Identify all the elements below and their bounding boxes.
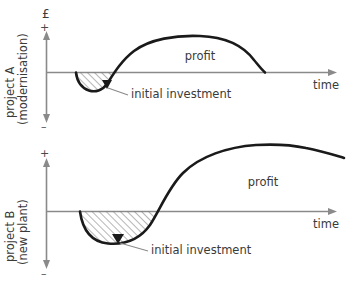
chart-a-profit-label: profit bbox=[185, 49, 216, 63]
chart-a-x-axis-label: time bbox=[313, 78, 339, 92]
chart-a-axis-plus-sign: + bbox=[40, 21, 49, 34]
chart-b-initial-investment-label: initial investment bbox=[151, 243, 252, 257]
chart-b-axis-plus-sign: + bbox=[40, 147, 49, 160]
chart-a-axis-minus-sign: – bbox=[41, 120, 47, 133]
cash-flow-diagram: project A (modernisation) £ + – time pro… bbox=[0, 0, 363, 285]
chart-a-side-label-line2: (modernisation) bbox=[16, 33, 30, 125]
chart-a-side-label-line1: project A bbox=[3, 66, 17, 118]
chart-b-x-axis-label: time bbox=[313, 217, 339, 231]
chart-a-initial-investment-label: initial investment bbox=[131, 87, 232, 101]
chart-b-profit-label: profit bbox=[248, 175, 279, 189]
chart-b-side-label-line1: project B bbox=[3, 210, 17, 262]
chart-a-y-axis-label: £ bbox=[42, 7, 50, 21]
chart-b-axis-minus-sign: – bbox=[41, 267, 47, 280]
chart-b-side-label-line2: (new plant) bbox=[16, 199, 30, 265]
